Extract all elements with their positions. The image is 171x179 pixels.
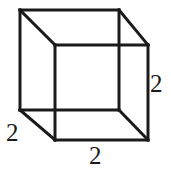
dimension-label-right: 2 [150,71,163,96]
edge-depth-top-right [119,10,148,45]
cube-figure: 2 2 2 [0,0,171,179]
edge-depth-bottom-left [20,110,55,140]
dimension-label-bottom: 2 [89,143,102,168]
dimension-label-left-depth: 2 [6,120,19,145]
cube-wireframe [0,0,171,179]
edge-depth-top-left [20,10,55,45]
edge-depth-bottom-right [119,110,148,140]
